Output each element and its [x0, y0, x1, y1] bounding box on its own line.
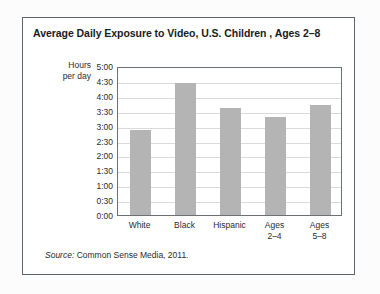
- y-axis-tick-label: 2:00: [73, 151, 113, 161]
- x-axis-tick-label: Ages5–8: [292, 220, 348, 241]
- y-axis-tick-label: 1:00: [73, 181, 113, 191]
- y-axis-tick-label: 4:00: [73, 92, 113, 102]
- page-background: Average Daily Exposure to Video, U.S. Ch…: [0, 0, 380, 294]
- gridline: [118, 83, 341, 84]
- y-axis-ticks: 5:004:304:003:303:002:302:001:301:000:30…: [71, 67, 113, 216]
- source-text: Common Sense Media, 2011.: [74, 250, 188, 260]
- y-axis-tick-label: 0:00: [73, 211, 113, 221]
- y-axis-tick-label: 3:00: [73, 122, 113, 132]
- bar: [175, 83, 196, 215]
- bar: [310, 105, 331, 215]
- y-axis-tick-label: 5:00: [73, 62, 113, 72]
- source-label: Source:: [45, 250, 74, 260]
- page-title: Average Daily Exposure to Video, U.S. Ch…: [33, 27, 345, 39]
- bar: [265, 117, 286, 215]
- plot-area: [117, 67, 342, 216]
- y-axis-tick-label: 2:30: [73, 137, 113, 147]
- x-axis-tick-label-line: Ages: [292, 220, 348, 231]
- source-note: Source: Common Sense Media, 2011.: [45, 250, 188, 260]
- bar: [220, 108, 241, 215]
- y-axis-tick-label: 0:30: [73, 196, 113, 206]
- y-axis-tick-label: 3:30: [73, 107, 113, 117]
- y-axis-tick-label: 4:30: [73, 77, 113, 87]
- bar: [130, 130, 151, 215]
- gridline: [118, 98, 341, 99]
- x-axis-tick-label-line: 5–8: [292, 231, 348, 242]
- y-axis-tick-label: 1:30: [73, 166, 113, 176]
